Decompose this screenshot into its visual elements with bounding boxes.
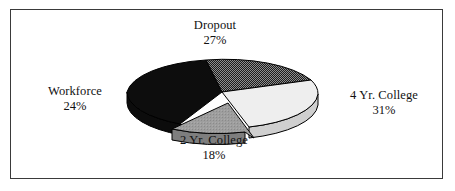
slice-label-dropout-name: Dropout — [155, 18, 275, 33]
chart-page: Dropout 27% Workforce 24% 4 Yr. College … — [0, 0, 455, 191]
slice-label-workforce: Workforce 24% — [20, 84, 130, 113]
slice-label-four-year-name: 4 Yr. College — [322, 88, 446, 103]
slice-label-workforce-percent: 24% — [20, 99, 130, 114]
slice-label-dropout: Dropout 27% — [155, 18, 275, 47]
slice-label-two-year-percent: 18% — [148, 148, 280, 163]
slice-label-dropout-percent: 27% — [155, 33, 275, 48]
slice-label-four-year: 4 Yr. College 31% — [322, 88, 446, 117]
slice-label-workforce-name: Workforce — [20, 84, 130, 99]
slice-label-four-year-percent: 31% — [322, 103, 446, 118]
pie-chart: Dropout 27% Workforce 24% 4 Yr. College … — [0, 0, 455, 191]
slice-label-two-year-name: 2 Yr. College — [148, 133, 280, 148]
slice-label-two-year: 2 Yr. College 18% — [148, 133, 280, 162]
